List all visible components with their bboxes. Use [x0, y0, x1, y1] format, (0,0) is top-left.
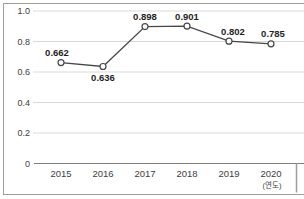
data-point-marker [268, 41, 274, 47]
x-axis-tick-label: 2018 [176, 168, 197, 179]
x-axis-unit-label: (연도) [252, 179, 292, 190]
data-point-marker [184, 23, 190, 29]
data-point-marker [58, 60, 64, 66]
data-point-label: 0.898 [133, 11, 157, 22]
y-axis-tick-label: 1.0 [17, 6, 30, 16]
y-axis-tick-label: 0.2 [17, 128, 30, 138]
data-point-label: 0.636 [91, 72, 115, 83]
data-point-label: 0.901 [175, 11, 199, 22]
x-axis-tick-label: 2015 [50, 168, 71, 179]
x-axis-tick-label: 2019 [218, 168, 239, 179]
y-axis-tick-label: 0.6 [17, 67, 30, 77]
chart-plot-area: 00.20.40.60.81.0201520162017201820192020… [0, 0, 304, 199]
line-chart: 00.20.40.60.81.0201520162017201820192020… [0, 0, 304, 199]
data-point-marker [100, 64, 106, 70]
x-axis-tick-label: 2017 [134, 168, 155, 179]
x-axis-tick-label: 2020 [260, 168, 281, 179]
data-point-label: 0.662 [45, 47, 69, 58]
data-point-marker [142, 24, 148, 30]
y-axis-tick-label: 0.4 [17, 98, 30, 108]
x-axis-tick-label: 2016 [92, 168, 113, 179]
data-point-label: 0.785 [261, 28, 285, 39]
data-point-label: 0.802 [221, 26, 245, 37]
data-point-marker [226, 38, 232, 44]
y-axis-tick-label: 0 [25, 159, 30, 169]
y-axis-tick-label: 0.8 [17, 37, 30, 47]
